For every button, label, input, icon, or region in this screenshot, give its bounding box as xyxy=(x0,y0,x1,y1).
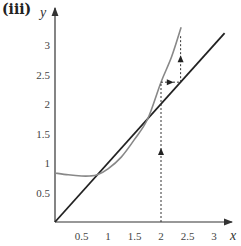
y-tick-label: 0.5 xyxy=(36,187,50,199)
x-axis-label: x xyxy=(229,228,237,243)
x-tick-label: 1 xyxy=(105,230,111,242)
y-axis-label: y xyxy=(38,5,47,20)
y-tick-label: 3 xyxy=(45,39,51,51)
line-y-equals-x xyxy=(55,33,225,222)
x-tick-label: 2 xyxy=(158,230,164,242)
x-tick-label: 3 xyxy=(211,230,217,242)
x-tick-label: 0.5 xyxy=(75,230,89,242)
cobweb-arrow-icon xyxy=(158,148,164,155)
y-tick-label: 2.5 xyxy=(36,69,50,81)
cobweb-arrow-icon xyxy=(167,79,174,85)
x-tick-label: 1.5 xyxy=(128,230,142,242)
chart: xy0.511.522.530.511.522.53 xyxy=(0,0,241,246)
cobweb-arrow-icon xyxy=(178,55,184,62)
y-tick-label: 2 xyxy=(45,98,51,110)
x-tick-label: 2.5 xyxy=(181,230,195,242)
y-tick-label: 1.5 xyxy=(36,128,50,140)
y-tick-label: 1 xyxy=(45,157,51,169)
